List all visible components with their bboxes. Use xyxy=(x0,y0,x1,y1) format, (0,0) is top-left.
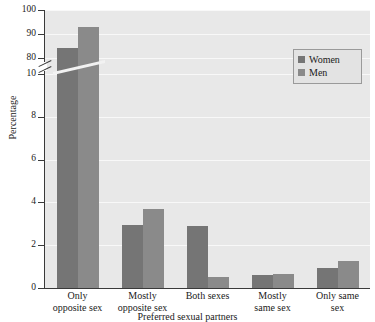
y-tick-label-4: 4 xyxy=(6,197,36,207)
category-label-line1: Only same xyxy=(305,290,370,302)
y-tick-2 xyxy=(38,245,44,246)
y-tick-label-0: 0 xyxy=(6,283,36,293)
y-tick-90 xyxy=(38,34,44,35)
y-tick-0 xyxy=(38,288,44,289)
bar-women-3 xyxy=(252,275,273,288)
y-tick-label-10: 10 xyxy=(6,69,36,79)
legend-swatch-women-icon xyxy=(298,56,305,63)
bar-men-4 xyxy=(338,261,359,288)
y-tick-10 xyxy=(38,74,44,75)
legend-item-men: Men xyxy=(298,66,357,79)
y-tick-100 xyxy=(38,10,44,11)
bar-men-2 xyxy=(208,277,229,288)
bar-women-4 xyxy=(317,268,338,288)
legend-label-men: Men xyxy=(309,67,327,78)
y-tick-label-90: 90 xyxy=(6,29,36,39)
y-tick-8 xyxy=(38,117,44,118)
y-tick-label-80: 80 xyxy=(6,53,36,63)
legend-label-women: Women xyxy=(309,54,340,65)
category-label-3: Mostlysame sex xyxy=(240,290,305,313)
category-label-4: Only samesex xyxy=(305,290,370,313)
category-label-2: Both sexes xyxy=(175,290,240,302)
bar-men-0 xyxy=(78,27,99,288)
bar-women-1 xyxy=(122,225,143,288)
y-axis-break-icon xyxy=(38,58,52,74)
bar-men-3 xyxy=(273,274,294,288)
y-tick-label-8: 8 xyxy=(6,111,36,121)
category-label-line1: Both sexes xyxy=(175,290,240,302)
category-label-line1: Mostly xyxy=(110,290,175,302)
x-axis-title: Preferred sexual partners xyxy=(0,311,375,322)
bar-men-1 xyxy=(143,209,164,288)
x-axis-line xyxy=(44,288,370,289)
category-label-0: Onlyopposite sex xyxy=(45,290,110,313)
bar-women-0 xyxy=(57,48,78,288)
bar-women-2 xyxy=(187,226,208,288)
y-tick-4 xyxy=(38,202,44,203)
category-label-1: Mostlyopposite sex xyxy=(110,290,175,313)
y-tick-6 xyxy=(38,160,44,161)
y-axis-line xyxy=(44,10,45,288)
legend-swatch-men-icon xyxy=(298,69,305,76)
y-tick-label-100: 100 xyxy=(6,5,36,15)
category-label-line1: Only xyxy=(45,290,110,302)
y-tick-label-2: 2 xyxy=(6,240,36,250)
legend-item-women: Women xyxy=(298,53,357,66)
category-label-line1: Mostly xyxy=(240,290,305,302)
legend: Women Men xyxy=(293,49,362,84)
y-tick-label-6: 6 xyxy=(6,154,36,164)
gridline xyxy=(45,10,370,11)
